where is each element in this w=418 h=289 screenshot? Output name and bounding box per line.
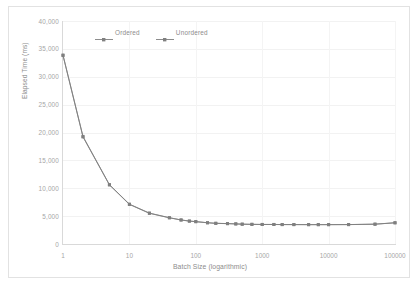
series-line-unordered — [63, 55, 395, 225]
data-point-marker — [226, 222, 229, 225]
data-point-marker — [81, 135, 84, 138]
y-axis-tick-label: 5,000 — [17, 213, 59, 220]
data-point-marker — [307, 223, 310, 226]
data-point-marker — [194, 220, 197, 223]
legend-label: Unordered — [176, 29, 208, 36]
data-point-marker — [234, 222, 237, 225]
data-point-marker — [241, 223, 244, 226]
chart-container: 05,00010,00015,00020,00025,00030,00035,0… — [8, 6, 410, 278]
data-point-marker — [148, 212, 151, 215]
x-axis-tick-label: 100 — [176, 252, 216, 260]
data-point-marker — [128, 203, 131, 206]
data-point-marker — [188, 220, 191, 223]
data-point-marker — [317, 223, 320, 226]
data-point-marker — [261, 223, 264, 226]
data-point-marker — [250, 223, 253, 226]
legend-item-unordered[interactable]: Unordered — [156, 29, 208, 36]
legend-label: Ordered — [115, 29, 140, 36]
data-point-marker — [180, 218, 183, 221]
x-axis-tick-label: 1000 — [242, 252, 282, 260]
x-axis-tick-label: 10 — [109, 252, 149, 260]
gridline-vertical — [395, 21, 396, 244]
x-axis-title: Batch Size (logarithmic) — [9, 263, 411, 270]
y-axis-tick-labels: 05,00010,00015,00020,00025,00030,00035,0… — [13, 7, 59, 279]
x-axis-tick-label: 10000 — [309, 252, 349, 260]
legend-marker-icon — [156, 29, 174, 36]
data-point-marker — [272, 223, 275, 226]
legend-marker-icon — [95, 29, 113, 36]
series-line-ordered — [63, 56, 395, 225]
data-point-marker — [62, 54, 65, 57]
y-axis-tick-label: 25,000 — [17, 101, 59, 108]
y-axis-tick-label: 0 — [17, 241, 59, 248]
x-axis-line — [62, 244, 396, 245]
y-axis-tick-label: 15,000 — [17, 157, 59, 164]
legend-item-ordered[interactable]: Ordered — [95, 29, 140, 36]
plot-area — [63, 21, 395, 244]
x-axis-tick-label: 100000 — [375, 252, 415, 260]
data-point-marker — [108, 183, 111, 186]
series-plot — [63, 21, 395, 244]
data-point-marker — [394, 221, 397, 224]
data-point-marker — [374, 223, 377, 226]
chart-legend: OrderedUnordered — [95, 29, 208, 36]
data-point-marker — [347, 223, 350, 226]
y-axis-tick-label: 10,000 — [17, 185, 59, 192]
data-point-marker — [292, 223, 295, 226]
y-axis-title: Elapsed Time (ms) — [21, 42, 28, 99]
y-axis-tick-label: 20,000 — [17, 129, 59, 136]
data-point-marker — [214, 222, 217, 225]
data-point-marker — [327, 223, 330, 226]
data-point-marker — [168, 216, 171, 219]
y-axis-tick-label: 40,000 — [17, 18, 59, 25]
x-axis-tick-label: 1 — [43, 252, 83, 260]
data-point-marker — [206, 221, 209, 224]
data-point-marker — [281, 223, 284, 226]
